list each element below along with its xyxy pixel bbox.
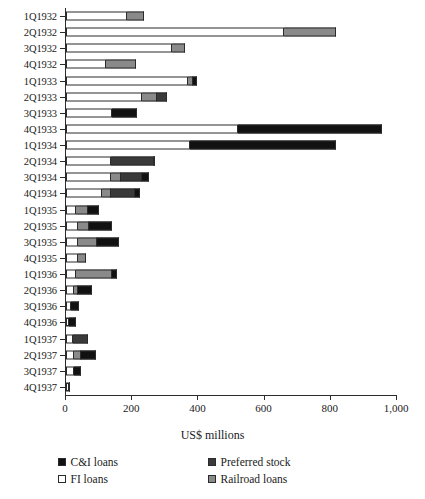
bar-row: 2Q1937	[65, 347, 396, 363]
legend-item-label: FI loans	[71, 473, 108, 485]
bar-segment-railroad-loans	[76, 270, 112, 279]
bar-segment-preferred-stock	[111, 157, 154, 166]
category-tick	[60, 81, 65, 82]
legend-swatch-fi-loans	[58, 475, 66, 483]
bar-stack	[66, 108, 137, 117]
bar-segment-fi-loans	[66, 141, 190, 150]
bar-segment-railroad-loans	[74, 350, 81, 359]
category-tick	[60, 322, 65, 323]
bar-row: 3Q1932	[65, 40, 396, 56]
category-axis-label: 3Q1934	[24, 172, 57, 183]
category-axis-label: 1Q1932	[24, 11, 57, 22]
bar-segment-c-i-loans	[71, 302, 79, 311]
bar-segment-fi-loans	[66, 108, 112, 117]
bar-segment-railroad-loans	[111, 173, 121, 182]
bar-row: 2Q1933	[65, 89, 396, 105]
category-tick	[60, 161, 65, 162]
bar-segment-fi-loans	[66, 221, 78, 230]
bar-row: 1Q1934	[65, 137, 396, 153]
bar-segment-fi-loans	[66, 334, 73, 343]
bar-segment-c-i-loans	[142, 173, 149, 182]
bar-segment-fi-loans	[66, 286, 74, 295]
bar-segment-railroad-loans	[106, 60, 136, 69]
bar-segment-fi-loans	[66, 44, 172, 53]
bar-stack	[66, 157, 155, 166]
legend-swatch-ci-loans	[58, 458, 66, 466]
bar-segment-railroad-loans	[78, 237, 98, 246]
bar-row: 4Q1934	[65, 185, 396, 201]
value-axis-tick-label: 200	[123, 402, 140, 414]
bar-segment-preferred-stock	[111, 189, 136, 198]
legend-item-label: Preferred stock	[221, 456, 291, 468]
bar-stack	[66, 12, 144, 21]
bar-stack	[66, 366, 81, 375]
category-tick	[60, 371, 65, 372]
bar-segment-fi-loans	[66, 366, 74, 375]
bar-row: 2Q1934	[65, 153, 396, 169]
bar-segment-fi-loans	[66, 12, 127, 21]
value-axis-tick	[396, 395, 397, 400]
legend-item: Railroad loans	[208, 470, 368, 487]
category-tick	[60, 226, 65, 227]
horizontal-stacked-bar-chart: 1Q19322Q19323Q19324Q19321Q19332Q19333Q19…	[0, 0, 425, 499]
legend-swatch-preferred-stock	[208, 458, 216, 466]
bar-segment-c-i-loans	[112, 108, 137, 117]
bar-segment-c-i-loans	[69, 318, 76, 327]
category-tick	[60, 97, 65, 98]
value-axis-tick-label: 600	[255, 402, 272, 414]
plot-area: 1Q19322Q19323Q19324Q19321Q19332Q19333Q19…	[65, 8, 396, 395]
category-tick	[60, 290, 65, 291]
bar-segment-c-i-loans	[135, 189, 140, 198]
legend-item-label: C&I loans	[71, 456, 119, 468]
category-axis-label: 2Q1932	[24, 27, 57, 38]
bar-stack	[66, 286, 92, 295]
bar-stack	[66, 173, 149, 182]
category-axis-label: 2Q1935	[24, 220, 57, 231]
bar-segment-railroad-loans	[127, 12, 144, 21]
value-axis-tick	[131, 395, 132, 400]
value-axis-tick	[330, 395, 331, 400]
legend-item: C&I loans	[58, 453, 208, 470]
bar-row: 1Q1937	[65, 331, 396, 347]
bar-stack	[66, 237, 119, 246]
bar-segment-railroad-loans	[172, 44, 185, 53]
bar-row: 2Q1935	[65, 218, 396, 234]
category-axis-label: 3Q1935	[24, 236, 57, 247]
category-axis-label: 4Q1933	[24, 123, 57, 134]
category-tick	[60, 193, 65, 194]
bar-stack	[66, 270, 117, 279]
category-tick	[60, 258, 65, 259]
category-tick	[60, 210, 65, 211]
bar-row: 1Q1936	[65, 266, 396, 282]
bar-stack	[66, 28, 336, 37]
bar-row: 1Q1933	[65, 73, 396, 89]
bar-stack	[66, 44, 185, 53]
bar-row: 4Q1932	[65, 56, 396, 72]
category-axis-label: 4Q1937	[24, 381, 57, 392]
bar-row: 2Q1936	[65, 282, 396, 298]
bar-stack	[66, 382, 70, 391]
category-axis-label: 1Q1935	[24, 204, 57, 215]
value-axis-tick-label: 400	[189, 402, 206, 414]
value-axis-tick-label: 800	[322, 402, 339, 414]
value-axis-tick-label: 0	[62, 402, 68, 414]
bar-segment-fi-loans	[66, 28, 284, 37]
bar-row: 3Q1934	[65, 169, 396, 185]
bar-segment-fi-loans	[66, 189, 102, 198]
bar-stack	[66, 189, 140, 198]
bar-row: 4Q1936	[65, 314, 396, 330]
legend-item: Preferred stock	[208, 453, 368, 470]
bar-segment-fi-loans	[66, 92, 142, 101]
value-axis-tick	[197, 395, 198, 400]
category-axis-label: 4Q1932	[24, 59, 57, 70]
legend-swatch-railroad-loans	[208, 475, 216, 483]
category-tick	[60, 177, 65, 178]
category-tick	[60, 64, 65, 65]
bar-row: 1Q1932	[65, 8, 396, 24]
bar-segment-fi-loans	[66, 350, 74, 359]
category-tick	[60, 339, 65, 340]
category-tick	[60, 387, 65, 388]
category-axis-label: 2Q1934	[24, 156, 57, 167]
bar-segment-railroad-loans	[142, 92, 157, 101]
category-tick	[60, 16, 65, 17]
